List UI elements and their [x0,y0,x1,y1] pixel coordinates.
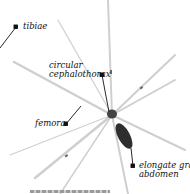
label-femora: femora [35,119,66,128]
cropped-caption [30,190,110,193]
label-cephalothorax: circular cephalothorax [49,61,111,79]
label-abdomen: elongate gray abdomen [139,161,190,179]
label-cephalothorax-line2: cephalothorax [49,70,111,79]
label-tibiae: tibiae [23,22,47,31]
spider-diagram: tibiae circular cephalothorax femora elo… [0,0,190,194]
label-abdomen-line2: abdomen [139,170,190,179]
